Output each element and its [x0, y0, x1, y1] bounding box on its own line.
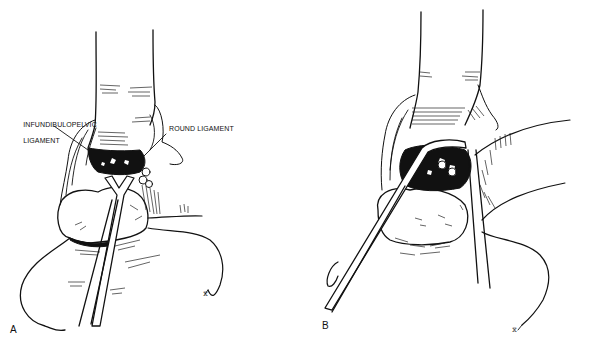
- svg-text:⧖: ⧖: [512, 326, 517, 333]
- panel-b: ⧖: [300, 0, 600, 353]
- panel-letter-b: B: [322, 320, 329, 331]
- svg-text:⧖: ⧖: [203, 290, 208, 297]
- infundibulopelvic-ligament-label: INFUNDIBULOPELVIC LIGAMENT: [11, 113, 97, 153]
- surgical-illustration-figure: ⧖ INFUNDIBULOPELVIC LIGAMENT ROUND LIGAM…: [0, 0, 600, 353]
- round-ligament-label: ROUND LIGAMENT: [169, 125, 234, 133]
- panel-a: ⧖ INFUNDIBULOPELVIC LIGAMENT ROUND LIGAM…: [0, 0, 300, 353]
- panel-b-drawing: ⧖: [300, 0, 600, 353]
- panel-a-drawing: ⧖: [0, 0, 300, 353]
- panel-letter-a: A: [10, 324, 17, 335]
- infundibulopelvic-label-line2: LIGAMENT: [23, 137, 60, 144]
- infundibulopelvic-label-line1: INFUNDIBULOPELVIC: [23, 121, 97, 128]
